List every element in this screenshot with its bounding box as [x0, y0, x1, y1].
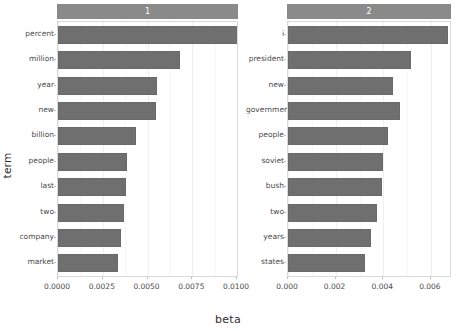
y-tick-label-years: years [246, 232, 284, 241]
bar-row [288, 203, 450, 223]
bar-company [58, 229, 121, 247]
y-tick-mark [54, 212, 56, 213]
bar-row [58, 25, 237, 45]
y-tick-label-i: i [246, 29, 284, 38]
bar-billion [58, 127, 136, 145]
y-tick-label-president: president [246, 54, 284, 63]
y-tick-label-billion: billion [16, 130, 54, 139]
bar-row [58, 228, 237, 248]
x-tick-label: 0.002 [324, 282, 345, 291]
bar-government [288, 102, 400, 120]
y-tick-mark [284, 110, 286, 111]
plot-area-1 [57, 21, 238, 277]
plot-area-2 [287, 21, 451, 277]
x-tick-mark [430, 277, 431, 279]
faceted-bar-chart: term 1 percentmillionyearnewbillionpeopl… [0, 0, 456, 331]
y-tick-mark [284, 85, 286, 86]
bar-percent [58, 26, 238, 44]
bar-row [288, 50, 450, 70]
bar-market [58, 254, 118, 272]
x-tick-label: 0.0025 [89, 282, 115, 291]
bar-year [58, 77, 157, 95]
y-tick-mark [54, 85, 56, 86]
y-tick-mark [284, 212, 286, 213]
bar-new [58, 102, 156, 120]
bar-row [288, 177, 450, 197]
y-tick-mark [54, 161, 56, 162]
y-tick-label-million: million [16, 54, 54, 63]
x-tick-mark [147, 277, 148, 279]
bar-years [288, 229, 371, 247]
bar-row [288, 25, 450, 45]
bar-million [58, 51, 180, 69]
y-tick-mark [54, 237, 56, 238]
bar-row [58, 152, 237, 172]
y-tick-label-bush: bush [246, 181, 284, 190]
y-tick-label-percent: percent [16, 29, 54, 38]
bar-two [58, 204, 124, 222]
y-tick-label-two: two [246, 207, 284, 216]
y-tick-mark [284, 34, 286, 35]
x-tick-mark [382, 277, 383, 279]
gridline-major [237, 22, 238, 276]
bar-row [288, 253, 450, 273]
y-tick-mark [54, 135, 56, 136]
y-tick-mark [54, 262, 56, 263]
bar-row [58, 177, 237, 197]
bar-bush [288, 178, 382, 196]
bar-row [288, 126, 450, 146]
bar-soviet [288, 153, 383, 171]
y-tick-mark [54, 34, 56, 35]
y-axis-ticks-2: ipresidentnewgovernmentpeoplesovietbusht… [246, 21, 284, 277]
x-tick-mark [57, 277, 58, 279]
y-axis-ticks-1: percentmillionyearnewbillionpeoplelasttw… [16, 21, 54, 277]
x-tick-label: 0.006 [419, 282, 440, 291]
bar-new [288, 77, 393, 95]
x-tick-label: 0.0000 [44, 282, 70, 291]
x-tick-mark [287, 277, 288, 279]
y-tick-mark [284, 161, 286, 162]
bar-people [288, 127, 388, 145]
y-tick-mark [284, 135, 286, 136]
y-tick-label-market: market [16, 257, 54, 266]
y-tick-label-states: states [246, 257, 284, 266]
y-tick-label-people: people [16, 156, 54, 165]
y-axis-title: term [0, 0, 14, 331]
y-tick-label-new: new [16, 105, 54, 114]
x-tick-mark [335, 277, 336, 279]
y-tick-label-year: year [16, 80, 54, 89]
bar-states [288, 254, 365, 272]
x-tick-label: 0.000 [276, 282, 297, 291]
y-tick-mark [284, 237, 286, 238]
bar-row [58, 101, 237, 121]
x-tick-mark [102, 277, 103, 279]
x-tick-mark [236, 277, 237, 279]
y-tick-mark [284, 59, 286, 60]
y-tick-label-last: last [16, 181, 54, 190]
facet-panel-2: 2 ipresidentnewgovernmentpeoplesovietbus… [246, 4, 451, 304]
x-axis-title: beta [0, 313, 456, 326]
y-tick-mark [54, 59, 56, 60]
bar-row [288, 228, 450, 248]
x-tick-label: 0.0050 [133, 282, 159, 291]
bar-row [288, 76, 450, 96]
y-tick-mark [54, 110, 56, 111]
bar-row [58, 253, 237, 273]
bar-row [288, 152, 450, 172]
bar-president [288, 51, 411, 69]
bar-i [288, 26, 448, 44]
bar-row [58, 203, 237, 223]
y-tick-mark [54, 186, 56, 187]
y-tick-label-government: government [246, 105, 284, 114]
x-tick-label: 0.004 [372, 282, 393, 291]
y-tick-mark [284, 262, 286, 263]
y-tick-mark [284, 186, 286, 187]
y-tick-label-new: new [246, 80, 284, 89]
facet-panel-1: 1 percentmillionyearnewbillionpeoplelast… [16, 4, 238, 304]
x-axis-1: 0.00000.00250.00500.00750.0100 [57, 277, 238, 304]
bar-two [288, 204, 377, 222]
bar-last [58, 178, 126, 196]
bar-row [58, 50, 237, 70]
facet-strip-label-1: 1 [57, 4, 238, 19]
bar-row [58, 126, 237, 146]
